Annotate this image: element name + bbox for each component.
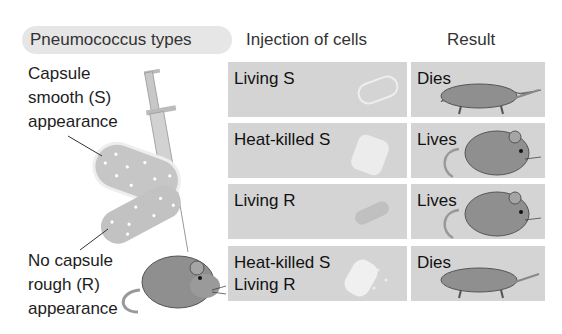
dead-mouse-icon bbox=[411, 246, 545, 301]
live-mouse-icon bbox=[411, 123, 545, 178]
injection-cell: Living R bbox=[228, 184, 407, 239]
header-injection-of-cells: Injection of cells bbox=[246, 30, 367, 50]
injection-cell: Heat-killed S bbox=[228, 123, 407, 178]
injection-cell: Living S bbox=[228, 62, 407, 117]
dead-mouse-icon bbox=[411, 62, 545, 117]
live-mouse-icon bbox=[411, 184, 545, 239]
live-mouse-icon bbox=[123, 256, 226, 312]
living-r-cell-icon bbox=[228, 184, 407, 239]
living-s-cell-icon bbox=[228, 62, 407, 117]
header-result: Result bbox=[447, 30, 495, 50]
result-cell: Dies bbox=[411, 62, 545, 117]
result-cell: Dies bbox=[411, 246, 545, 301]
illustration-left bbox=[0, 0, 230, 334]
result-cell: Lives bbox=[411, 123, 545, 178]
mixed-cells-icon bbox=[228, 246, 407, 301]
injection-cell: Heat-killed S Living R bbox=[228, 246, 407, 301]
heat-killed-s-cell-icon bbox=[228, 123, 407, 178]
result-cell: Lives bbox=[411, 184, 545, 239]
